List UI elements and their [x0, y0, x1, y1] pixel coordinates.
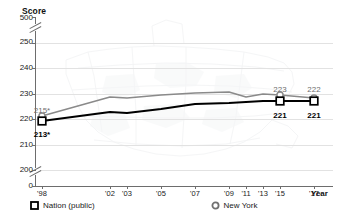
point-label-nation-2015: 221: [273, 111, 286, 120]
point-label-new-york-2017: 222: [307, 85, 320, 94]
gridline-250: [36, 43, 333, 44]
circle-marker-icon: [211, 201, 220, 210]
y-tickmark-220: [32, 119, 36, 120]
x-tick-2015: '15: [275, 189, 285, 198]
gridline-230: [36, 94, 333, 95]
gridline-200: [36, 170, 333, 171]
y-tick-0: 0: [3, 181, 33, 190]
y-tick-500: 500: [3, 13, 33, 22]
point-label-nation-2017: 221: [307, 111, 320, 120]
x-tick-2002: '02: [105, 189, 115, 198]
legend-item-nation[interactable]: Nation (public): [30, 201, 95, 210]
x-tick-2013: '13: [258, 189, 268, 198]
point-label-new-york-2015: 223: [273, 85, 286, 94]
legend-label-nation: Nation (public): [43, 201, 95, 210]
y-tickmark-200: [32, 170, 36, 171]
gridline-210: [36, 145, 333, 146]
x-axis-title: Year: [311, 189, 328, 198]
y-tickmark-0: [32, 186, 36, 187]
y-tick-220: 220: [3, 114, 33, 123]
gridline-240: [36, 68, 333, 69]
y-tick-250: 250: [3, 37, 33, 46]
x-tick-2011: '11: [241, 189, 250, 198]
y-tickmark-250: [32, 43, 36, 44]
point-label-new-york-1998: 215*: [34, 106, 50, 115]
y-tick-240: 240: [3, 63, 33, 72]
x-tick-2007: '07: [190, 189, 200, 198]
plot-area: [36, 16, 333, 186]
y-tick-200: 200: [3, 165, 33, 174]
y-tick-210: 210: [3, 140, 33, 149]
y-tickmark-240: [32, 68, 36, 69]
y-tickmark-230: [32, 94, 36, 95]
y-tickmark-500: [32, 17, 36, 18]
legend-item-new-york[interactable]: New York: [211, 201, 258, 210]
x-tick-2003: '03: [122, 189, 132, 198]
chart-container: Score 500 250 240 230 220 210 200 0: [0, 0, 341, 214]
x-tick-2009: '09: [224, 189, 234, 198]
y-tick-230: 230: [3, 89, 33, 98]
square-marker-icon: [30, 201, 39, 210]
x-axis-line: [35, 186, 333, 187]
legend-label-new-york: New York: [224, 201, 258, 210]
y-tick-labels: 500 250 240 230 220 210 200 0: [0, 0, 33, 214]
chart-legend: Nation (public) New York: [30, 198, 330, 212]
y-tickmark-210: [32, 145, 36, 146]
x-tick-1998: '98: [37, 189, 47, 198]
point-label-nation-1998: 213*: [34, 130, 50, 139]
gridline-220: [36, 119, 333, 120]
x-tick-2005: '05: [156, 189, 166, 198]
